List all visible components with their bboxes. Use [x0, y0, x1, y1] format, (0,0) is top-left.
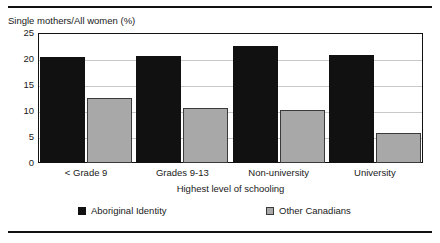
bar [40, 57, 85, 163]
bar [280, 110, 325, 163]
bottom-divider-rule [8, 231, 432, 233]
bar [376, 133, 421, 163]
legend-entry-aboriginal-identity: Aboriginal Identity [78, 205, 167, 217]
bar [329, 55, 374, 163]
x-axis-tick-label: Non-university [231, 167, 327, 179]
y-axis-title: Single mothers/All women (%) [8, 15, 135, 26]
chart-legend: Aboriginal Identity Other Canadians [38, 205, 423, 219]
x-axis-tick-label: University [327, 167, 423, 179]
bars-layer [38, 33, 423, 163]
y-axis-tick-label: 5 [8, 132, 34, 142]
y-axis-tick-label: 15 [8, 80, 34, 90]
legend-label: Aboriginal Identity [91, 205, 167, 217]
legend-entry-other-canadians: Other Canadians [266, 205, 351, 217]
y-axis-tick-label: 0 [8, 158, 34, 168]
bar [183, 108, 228, 163]
x-axis-tick-labels: < Grade 9Grades 9-13Non-universityUniver… [38, 167, 423, 181]
legend-label: Other Canadians [279, 205, 351, 217]
y-axis-tick-label: 20 [8, 54, 34, 64]
legend-swatch-icon [266, 207, 274, 215]
bar [136, 56, 181, 163]
bar [233, 46, 278, 163]
x-axis-tick-label: < Grade 9 [38, 167, 134, 179]
bar [87, 98, 132, 163]
x-axis-title: Highest level of schooling [38, 183, 423, 195]
y-axis-tick-labels: 0510152025 [8, 33, 34, 163]
bar-chart-figure: Single mothers/All women (%) 0510152025 … [0, 0, 440, 243]
x-axis-tick-label: Grades 9-13 [134, 167, 230, 179]
legend-swatch-icon [78, 207, 86, 215]
y-axis-tick-label: 10 [8, 106, 34, 116]
top-divider-rule [8, 6, 432, 8]
y-axis-tick-label: 25 [8, 28, 34, 38]
